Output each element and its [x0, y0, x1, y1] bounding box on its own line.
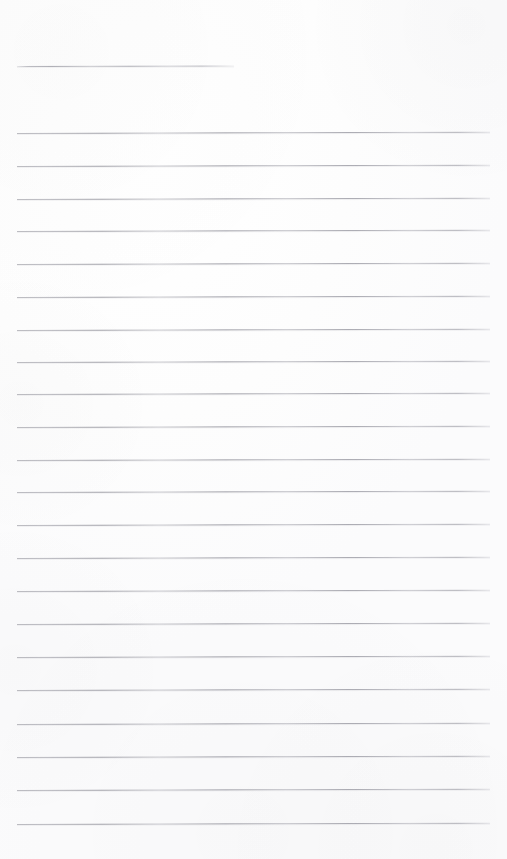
lined-paper-page — [0, 0, 507, 859]
page-body-text — [17, 50, 490, 840]
writing-area[interactable] — [17, 50, 490, 840]
